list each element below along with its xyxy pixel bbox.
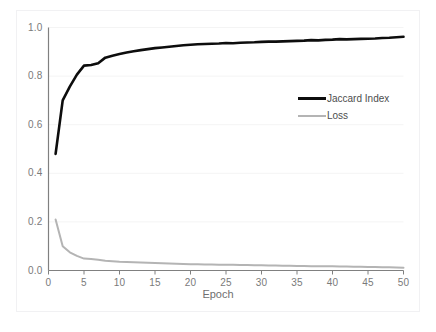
x-axis-tick-label: 10 bbox=[105, 277, 135, 288]
legend-label-loss: Loss bbox=[326, 110, 348, 121]
axis-lines-group bbox=[49, 28, 404, 271]
legend-label-jaccard-index: Jaccard Index bbox=[326, 93, 389, 104]
y-axis-tick-label: 0.8 bbox=[17, 70, 43, 81]
x-axis-tick-label: 0 bbox=[34, 277, 64, 288]
y-axis-tick-label: 0.4 bbox=[17, 167, 43, 178]
legend-line-swatch-icon bbox=[298, 115, 326, 117]
x-axis-tick-label: 45 bbox=[353, 277, 383, 288]
legend-entry-loss: Loss bbox=[298, 107, 410, 124]
x-axis-title: Epoch bbox=[0, 288, 436, 300]
x-axis-tick-label: 25 bbox=[211, 277, 241, 288]
series-line-loss bbox=[56, 219, 404, 267]
x-axis-tick-label: 40 bbox=[318, 277, 348, 288]
gridlines-group bbox=[49, 28, 404, 222]
x-axis-tick-label: 20 bbox=[176, 277, 206, 288]
chart-legend: Jaccard Index Loss bbox=[298, 90, 410, 124]
y-axis-tick-label: 1.0 bbox=[17, 22, 43, 33]
x-axis-tick-label: 15 bbox=[140, 277, 170, 288]
y-axis-tick-label: 0.6 bbox=[17, 119, 43, 130]
y-axis-tick-label: 0.2 bbox=[17, 216, 43, 227]
y-axis-tick-label: 0.0 bbox=[17, 265, 43, 276]
legend-line-swatch-icon bbox=[298, 97, 326, 100]
x-axis-tick-label: 5 bbox=[69, 277, 99, 288]
x-axis-tick-label: 30 bbox=[247, 277, 277, 288]
legend-entry-jaccard-index: Jaccard Index bbox=[298, 90, 410, 107]
x-axis-tick-label: 50 bbox=[389, 277, 419, 288]
x-axis-tick-label: 35 bbox=[282, 277, 312, 288]
